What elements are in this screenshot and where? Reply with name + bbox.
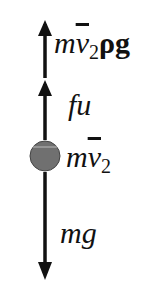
subscript: 2: [101, 155, 111, 177]
ball: [30, 141, 60, 171]
friction-arrow: [38, 80, 52, 140]
subscript: 2: [89, 41, 99, 63]
gravity-arrow: [38, 172, 52, 280]
buoyancy-arrow: [38, 20, 52, 78]
gravity-label: mg: [60, 218, 97, 248]
rho-g: ρg: [99, 26, 130, 59]
mass-symbol: m: [66, 140, 88, 173]
mass-symbol: m: [54, 26, 76, 59]
velocity-symbol: v: [88, 140, 101, 173]
buoyancy-label: mv2ρg: [54, 28, 130, 62]
friction-label: fu: [68, 90, 91, 120]
velocity-symbol: v: [76, 26, 89, 59]
ball-label: mv2: [66, 142, 111, 176]
